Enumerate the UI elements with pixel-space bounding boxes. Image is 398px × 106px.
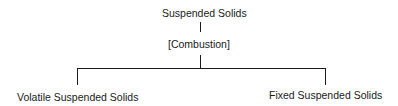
root-node-suspended-solids: Suspended Solids xyxy=(162,7,247,19)
child-node-volatile-suspended-solids: Volatile Suspended Solids xyxy=(17,91,138,103)
process-node-combustion: [Combustion] xyxy=(168,38,230,50)
connector-process-to-branch xyxy=(200,55,201,69)
branch-horizontal-line xyxy=(77,68,326,69)
child-node-fixed-suspended-solids: Fixed Suspended Solids xyxy=(269,89,382,101)
connector-to-volatile xyxy=(77,68,78,85)
connector-root-to-process xyxy=(200,22,201,32)
connector-to-fixed xyxy=(325,68,326,85)
